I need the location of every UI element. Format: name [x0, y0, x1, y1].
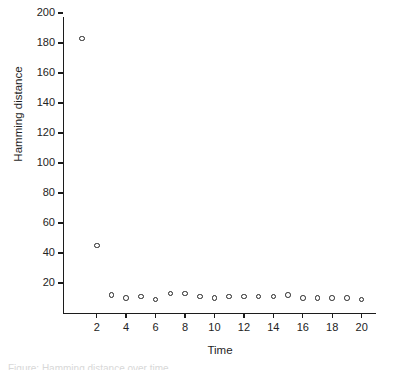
- x-tick-label: 12: [232, 322, 256, 333]
- data-point: [271, 294, 277, 300]
- y-tick: [58, 282, 63, 283]
- y-tick-label: 180: [21, 37, 55, 48]
- x-tick-label: 16: [291, 322, 315, 333]
- x-axis-title: Time: [0, 344, 401, 356]
- y-tick: [58, 12, 63, 13]
- caption-sliver: Figure: Hamming distance over time: [8, 363, 338, 370]
- data-point: [109, 292, 115, 298]
- data-point: [359, 297, 365, 303]
- data-point: [285, 292, 291, 298]
- data-point: [79, 36, 85, 42]
- data-point: [344, 295, 350, 301]
- data-point: [94, 243, 100, 249]
- x-tick: [332, 313, 333, 318]
- data-point: [182, 291, 188, 297]
- y-tick-label: 80: [21, 187, 55, 198]
- y-tick: [58, 222, 63, 223]
- x-tick: [155, 313, 156, 318]
- scatter-plot: Hamming distance Time 204060801001201401…: [0, 0, 401, 371]
- y-tick-label: 40: [21, 247, 55, 258]
- y-axis-line: [63, 17, 64, 314]
- x-tick-label: 10: [202, 322, 226, 333]
- y-tick-label: 100: [21, 157, 55, 168]
- data-point: [197, 294, 203, 300]
- x-tick: [302, 313, 303, 318]
- x-tick-label: 14: [261, 322, 285, 333]
- data-point: [212, 295, 218, 301]
- x-tick: [273, 313, 274, 318]
- x-tick-label: 4: [114, 322, 138, 333]
- y-tick: [58, 42, 63, 43]
- data-point: [315, 295, 321, 301]
- x-tick: [125, 313, 126, 318]
- x-tick: [243, 313, 244, 318]
- x-tick-label: 6: [144, 322, 168, 333]
- y-tick: [58, 102, 63, 103]
- y-tick: [58, 162, 63, 163]
- y-tick-label: 120: [21, 127, 55, 138]
- y-tick: [58, 132, 63, 133]
- x-tick: [361, 313, 362, 318]
- data-point: [241, 294, 247, 300]
- data-point: [138, 294, 144, 300]
- data-point: [123, 295, 129, 301]
- y-tick-label: 160: [21, 67, 55, 78]
- x-tick-label: 20: [350, 322, 374, 333]
- y-tick-label: 200: [21, 7, 55, 18]
- x-tick: [96, 313, 97, 318]
- x-tick: [214, 313, 215, 318]
- data-point: [329, 295, 335, 301]
- data-point: [256, 294, 262, 300]
- y-tick-label: 140: [21, 97, 55, 108]
- figure: Hamming distance Time 204060801001201401…: [0, 0, 401, 371]
- x-tick-label: 8: [173, 322, 197, 333]
- x-axis-line: [63, 313, 376, 314]
- y-tick: [58, 252, 63, 253]
- data-point: [168, 291, 174, 297]
- x-tick-label: 18: [320, 322, 344, 333]
- data-point: [226, 294, 232, 300]
- y-tick: [58, 72, 63, 73]
- y-tick: [58, 192, 63, 193]
- data-point: [153, 297, 159, 303]
- x-tick: [184, 313, 185, 318]
- x-tick-label: 2: [85, 322, 109, 333]
- y-tick-label: 20: [21, 277, 55, 288]
- data-point: [300, 295, 306, 301]
- y-tick-label: 60: [21, 217, 55, 228]
